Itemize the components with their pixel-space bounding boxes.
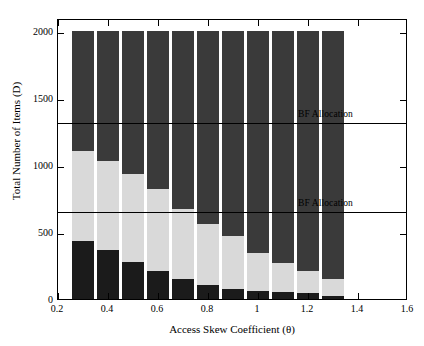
bf-allocation-lower-line	[58, 212, 406, 213]
x-axis-tick-top	[208, 20, 209, 26]
x-axis-tick-top	[108, 20, 109, 26]
bar-segment-channel-2	[72, 151, 93, 241]
y-axis-tick	[58, 33, 64, 34]
bar-segment-channel-1	[222, 289, 243, 299]
y-axis-tick	[58, 100, 64, 101]
x-axis-tick-label: 1.4	[337, 303, 377, 314]
bar-segment-channel-3	[97, 31, 118, 161]
bar-segment-channel-2	[97, 161, 118, 250]
bar-segment-channel-3	[297, 31, 318, 271]
x-axis-tick	[208, 293, 209, 299]
x-axis-tick	[58, 293, 59, 299]
bar-group	[272, 31, 293, 299]
x-axis-tick-label: 1.2	[287, 303, 327, 314]
bar-segment-channel-2	[297, 271, 318, 293]
bar-segment-channel-3	[122, 31, 143, 174]
x-axis-tick	[108, 293, 109, 299]
x-axis-tick-label: 0.8	[187, 303, 227, 314]
bf-allocation-upper-line	[58, 123, 406, 124]
x-axis-tick	[308, 293, 309, 299]
bar-segment-channel-2	[272, 263, 293, 292]
y-axis-tick-right	[400, 234, 406, 235]
bar-group	[72, 31, 93, 299]
bar-group	[247, 31, 268, 299]
y-axis-title: Total Number of Items (D)	[10, 41, 22, 241]
x-axis-tick-label: 0.6	[137, 303, 177, 314]
bar-segment-channel-1	[172, 279, 193, 299]
x-axis-tick-top	[308, 20, 309, 26]
plot-area: BF AllocationBF Allocation	[57, 19, 407, 300]
bar-segment-channel-1	[97, 250, 118, 299]
bar-segment-channel-3	[147, 31, 168, 188]
bar-segment-channel-3	[172, 31, 193, 208]
y-axis-tick-right	[400, 33, 406, 34]
x-axis-tick-label: 0.4	[87, 303, 127, 314]
bar-group	[197, 31, 218, 299]
x-axis-tick-label: 1	[237, 303, 277, 314]
bar-segment-channel-2	[322, 279, 343, 295]
y-axis-tick	[58, 167, 64, 168]
x-axis-tick-label: 0.2	[37, 303, 77, 314]
x-axis-tick	[258, 293, 259, 299]
bf-allocation-upper-label: BF Allocation	[298, 109, 353, 119]
plot-inner: BF AllocationBF Allocation	[58, 20, 406, 299]
y-axis-tick-label: 2000	[10, 26, 53, 37]
x-axis-tick-top	[58, 20, 59, 26]
bar-segment-channel-2	[122, 174, 143, 262]
bar-segment-channel-3	[72, 31, 93, 150]
bar-segment-channel-1	[72, 241, 93, 299]
x-axis-tick-top	[258, 20, 259, 26]
x-axis-tick-label: 1.6	[387, 303, 424, 314]
x-axis-tick	[158, 293, 159, 299]
x-axis-tick-top	[358, 20, 359, 26]
x-axis-title: Access Skew Coefficient (θ)	[57, 323, 407, 335]
bar-segment-channel-1	[322, 296, 343, 299]
bar-segment-channel-3	[272, 31, 293, 263]
y-axis-tick	[58, 234, 64, 235]
bar-group	[147, 31, 168, 299]
y-axis-tick-right	[400, 100, 406, 101]
chart-canvas: Channel 1 Channel 2 Channel 3 BF Allocat…	[0, 0, 424, 346]
bar-segment-channel-1	[122, 262, 143, 299]
bar-group	[222, 31, 243, 299]
bar-group	[322, 31, 343, 299]
bar-segment-channel-3	[247, 31, 268, 252]
bar-segment-channel-2	[247, 253, 268, 291]
bar-segment-channel-3	[222, 31, 243, 236]
bf-allocation-lower-label: BF Allocation	[298, 198, 353, 208]
bar-segment-channel-2	[222, 236, 243, 288]
bar-segment-channel-1	[272, 292, 293, 299]
bar-group	[97, 31, 118, 299]
bar-segment-channel-3	[197, 31, 218, 223]
bar-group	[122, 31, 143, 299]
bar-segment-channel-3	[322, 31, 343, 279]
bar-group	[297, 31, 318, 299]
y-axis-tick-right	[400, 167, 406, 168]
x-axis-tick	[358, 293, 359, 299]
bar-group	[172, 31, 193, 299]
bar-segment-channel-2	[172, 209, 193, 280]
bar-segment-channel-2	[197, 224, 218, 285]
x-axis-tick-top	[158, 20, 159, 26]
bar-segment-channel-2	[147, 189, 168, 271]
